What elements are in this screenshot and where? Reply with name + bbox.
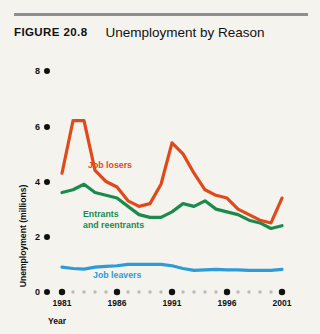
- x-tick-dot-major: [169, 289, 175, 295]
- x-tick-dot-minor: [258, 290, 261, 293]
- x-axis-labels: 1981 1986 1991 1996 2001: [53, 298, 292, 308]
- x-tick-dot-minor: [247, 290, 250, 293]
- x-tick-label: 1996: [218, 298, 237, 308]
- x-tick-dot-minor: [236, 290, 239, 293]
- x-tick-dot-major: [224, 289, 230, 295]
- y-tick-dot: [44, 124, 50, 130]
- x-tick-dot-minor: [181, 290, 184, 293]
- series-label-job-losers: Job losers: [88, 160, 132, 170]
- figure-header: FIGURE 20.8 Unemployment by Reason: [14, 20, 310, 44]
- x-axis-title: Year: [48, 316, 67, 326]
- series-label-job-leavers: Job leavers: [93, 270, 142, 280]
- x-tick-dot-major: [114, 289, 120, 295]
- x-tick-label: 1981: [53, 298, 72, 308]
- y-axis-title: Unemployment (millions): [18, 185, 28, 288]
- x-tick-label: 1986: [108, 298, 127, 308]
- x-tick-dot-major: [279, 289, 285, 295]
- x-tick-dot-minor: [192, 290, 195, 293]
- y-tick-label: 2: [35, 232, 40, 242]
- x-tick-dot-minor: [126, 290, 129, 293]
- x-tick-label: 2001: [273, 298, 292, 308]
- x-tick-dot-minor: [137, 290, 140, 293]
- figure-container: FIGURE 20.8 Unemployment by Reason 8 6 4…: [0, 0, 320, 334]
- x-tick-dot-minor: [269, 290, 272, 293]
- y-axis-ticks: 8 6 4 2 0: [35, 66, 50, 297]
- x-tick-label: 1991: [163, 298, 182, 308]
- y-tick-dot: [44, 289, 50, 295]
- y-tick-label: 6: [35, 122, 40, 132]
- x-tick-dot-minor: [104, 290, 107, 293]
- series-line-job-losers: [62, 121, 282, 223]
- y-tick-dot: [44, 234, 50, 240]
- y-tick-label: 8: [35, 66, 40, 76]
- x-tick-dot-major: [59, 289, 65, 295]
- x-tick-dot-minor: [148, 290, 151, 293]
- y-tick-label: 0: [35, 287, 40, 297]
- series-label-entrants-line2: and reentrants: [83, 220, 144, 230]
- figure-title: Unemployment by Reason: [105, 25, 264, 40]
- y-tick-label: 4: [35, 177, 40, 187]
- y-tick-dot: [44, 68, 50, 74]
- figure-number: FIGURE 20.8: [14, 26, 87, 38]
- x-tick-dot-minor: [82, 290, 85, 293]
- x-tick-dot-minor: [159, 290, 162, 293]
- x-tick-dot-minor: [214, 290, 217, 293]
- y-tick-dot: [44, 179, 50, 185]
- header-divider: [14, 13, 308, 16]
- x-tick-dot-minor: [203, 290, 206, 293]
- line-chart: 8 6 4 2 0 Unemployment (millions): [0, 46, 320, 334]
- chart-plot-area: 8 6 4 2 0 Unemployment (millions): [0, 46, 320, 334]
- x-tick-dot-minor: [71, 290, 74, 293]
- x-axis-ticks: [59, 289, 285, 295]
- x-tick-dot-minor: [93, 290, 96, 293]
- series-label-entrants-line1: Entrants: [83, 209, 119, 219]
